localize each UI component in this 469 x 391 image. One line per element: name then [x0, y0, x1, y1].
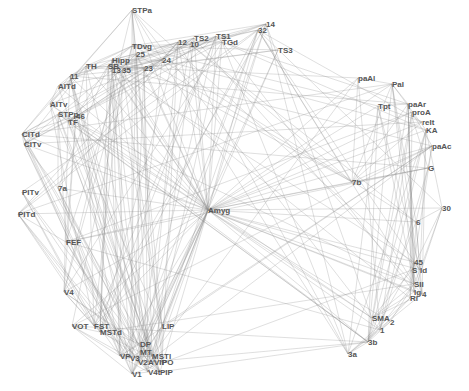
node-label: MSTd — [100, 328, 122, 337]
node-label: Id — [420, 266, 427, 275]
node-label: V4t — [148, 368, 161, 377]
node-label: STPa — [132, 6, 153, 15]
node-label: paAl — [358, 74, 375, 83]
edge — [144, 68, 352, 182]
edge — [208, 210, 414, 262]
node-label: MT — [140, 348, 152, 357]
node-label: 14 — [266, 20, 275, 29]
node-label: 13 — [112, 66, 121, 75]
node-label: V4 — [64, 288, 74, 297]
edge — [100, 66, 108, 332]
node-label: 3a — [348, 350, 357, 359]
node-label: V1 — [132, 370, 142, 379]
node-label: PO — [162, 358, 174, 367]
edge — [58, 114, 140, 352]
node-label: proA — [412, 108, 431, 117]
node-label: 11 — [70, 72, 79, 81]
node-label: PIP — [160, 368, 174, 377]
node-label: 4 — [422, 290, 427, 299]
node-label: G — [428, 164, 434, 173]
edge — [208, 24, 266, 210]
edge — [266, 24, 372, 318]
node-label: 32 — [258, 26, 267, 35]
edge — [352, 78, 358, 182]
node-label: KA — [426, 126, 438, 135]
edge — [352, 84, 392, 182]
edge — [208, 210, 390, 322]
edge — [208, 146, 432, 210]
node-label: 30 — [442, 204, 451, 213]
node-label: 7b — [352, 178, 361, 187]
edge — [368, 84, 392, 342]
edge — [208, 130, 426, 210]
edge — [208, 210, 368, 342]
edge — [112, 70, 414, 262]
node-label: 2 — [390, 318, 395, 327]
node-label: PITv — [22, 188, 39, 197]
edge — [24, 144, 58, 188]
node-label: S — [412, 266, 418, 275]
edge — [140, 50, 278, 352]
edge — [160, 342, 368, 372]
node-label: paAc — [432, 142, 452, 151]
edge — [258, 30, 414, 284]
node-label: AITd — [58, 82, 76, 91]
node-label: TGd — [222, 38, 238, 47]
edge — [140, 36, 216, 352]
node-label: 24 — [162, 56, 171, 65]
node-label: 3b — [368, 338, 377, 347]
edge — [208, 210, 380, 330]
node-label: TH — [86, 62, 97, 71]
edge — [22, 60, 162, 134]
node-label: TF — [68, 118, 78, 127]
node-label: CITv — [24, 140, 42, 149]
node-label: 6 — [416, 218, 421, 227]
edge — [24, 68, 144, 144]
node-label: VOT — [72, 322, 89, 331]
node-label: Amyg — [208, 206, 230, 215]
node-label: TS3 — [278, 46, 293, 55]
node-label: SMA — [372, 314, 390, 323]
network-diagram: STPaTS2TS1TGd1432TS3TDvg12102524HippTHSB… — [0, 0, 469, 391]
edge — [58, 114, 414, 284]
node-label: PITd — [18, 210, 35, 219]
edge — [208, 210, 420, 270]
edge — [148, 342, 368, 362]
edge — [208, 210, 416, 222]
node-label: Tpt — [378, 102, 391, 111]
node-label: Ri — [410, 294, 418, 303]
edge — [208, 208, 442, 210]
edge — [18, 210, 208, 214]
node-label: 10 — [190, 40, 199, 49]
edge — [208, 210, 372, 318]
edge — [258, 30, 420, 270]
edge — [348, 298, 410, 354]
node-label: PaI — [392, 80, 404, 89]
node-label: 25 — [136, 50, 145, 59]
edge — [352, 168, 428, 182]
node-label: LIP — [162, 322, 175, 331]
node-label: 1 — [380, 326, 385, 335]
node-label: 23 — [144, 64, 153, 73]
edge — [390, 284, 414, 322]
node-label: CITd — [22, 130, 40, 139]
node-label: FEF — [66, 238, 81, 247]
node-label: V2 — [138, 358, 148, 367]
node-label: 12 — [178, 38, 187, 47]
node-label: AITv — [50, 100, 68, 109]
edge — [258, 30, 422, 122]
edge — [162, 60, 348, 354]
node-label-layer: STPaTS2TS1TGd1432TS3TDvg12102524HippTHSB… — [18, 6, 452, 379]
node-label: 7a — [58, 184, 67, 193]
node-label: 35 — [122, 66, 131, 75]
edge — [416, 168, 428, 222]
edge — [208, 210, 422, 294]
